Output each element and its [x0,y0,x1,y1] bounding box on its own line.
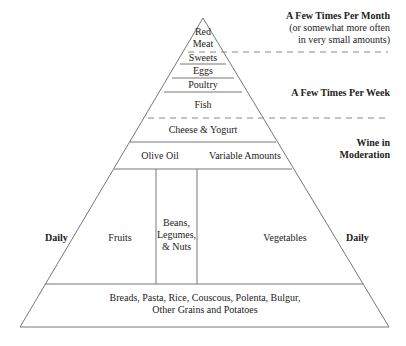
freq-wine: Wine in Moderation [339,137,390,161]
beans-line-3: & Nuts [156,241,197,253]
beans-line-2: Legumes, [156,229,197,241]
monthly-title: A Few Times Per Month [286,10,390,22]
tier-poultry: Poultry [163,79,243,91]
wine-line-2: Moderation [339,149,390,161]
tier-sweets: Sweets [173,52,233,64]
wine-line-1: Wine in [339,137,390,149]
tier-red-meat: Red Meat [183,26,223,50]
tier-fish: Fish [163,99,243,111]
freq-weekly: A Few Times Per Week [291,87,390,99]
grains-line-2: Other Grains and Potatoes [60,304,350,316]
red-meat-line-2: Meat [183,38,223,50]
tier-cheese-yogurt: Cheese & Yogurt [143,124,263,136]
tier-grains: Breads, Pasta, Rice, Couscous, Polenta, … [60,292,350,316]
tier-eggs: Eggs [173,65,233,77]
freq-monthly: A Few Times Per Month (or somewhat more … [286,10,390,46]
beans-line-1: Beans, [156,217,197,229]
freq-daily-left: Daily [45,232,68,244]
red-meat-line-1: Red [183,26,223,38]
tier-vegetables: Vegetables [250,232,320,244]
tier-fruits: Fruits [90,232,150,244]
monthly-note-1: (or somewhat more often [286,22,390,34]
grains-line-1: Breads, Pasta, Rice, Couscous, Polenta, … [60,292,350,304]
tier-variable-amounts: Variable Amounts [200,150,290,162]
monthly-note-2: in very small amounts) [286,34,390,46]
tier-olive-oil: Olive Oil [125,150,195,162]
tier-beans-legumes-nuts: Beans, Legumes, & Nuts [156,217,197,253]
freq-daily-right: Daily [346,232,369,244]
